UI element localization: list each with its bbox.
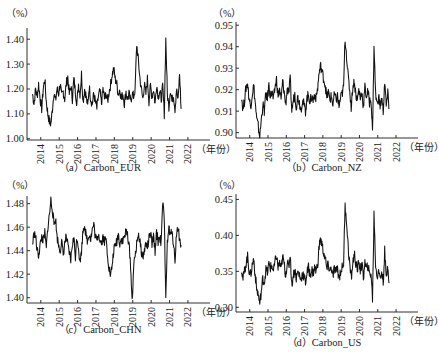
x-tick-label: 2021 xyxy=(372,316,383,336)
x-tick-label: 2022 xyxy=(391,316,402,336)
x-tick-label: 2015 xyxy=(263,316,274,336)
x-tick-label: 2018 xyxy=(317,316,328,336)
x-tick-label: 2016 xyxy=(281,316,292,336)
y-tick-label: 0.30 xyxy=(215,302,233,313)
x-tick-label: 2017 xyxy=(299,316,310,336)
y-tick-label: 0.35 xyxy=(215,266,233,277)
x-axis-unit-label: （年份） xyxy=(404,315,439,327)
axis-lines xyxy=(236,194,418,312)
chart-caption-d: （d）Carbon_US xyxy=(287,334,362,349)
line-chart-carbon-us: 0.300.350.400.45201420152016201720182019… xyxy=(0,0,439,360)
x-tick-label: 2014 xyxy=(244,316,255,336)
y-tick-label: 0.45 xyxy=(215,194,233,205)
data-series-line xyxy=(242,203,390,304)
y-axis-unit-label: （%） xyxy=(213,180,241,191)
x-tick-label: 2019 xyxy=(336,316,347,336)
x-tick-label: 2020 xyxy=(354,316,365,336)
y-tick-label: 0.40 xyxy=(215,230,233,241)
